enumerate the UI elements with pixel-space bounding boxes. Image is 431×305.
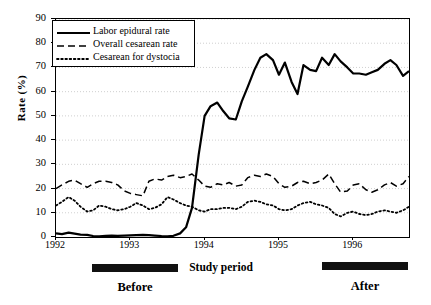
x-tick-label: 1992 xyxy=(35,240,75,250)
chart-figure: Rate (%) 0102030405060708090 19921993199… xyxy=(0,0,431,305)
legend-label: Overall cesarean rate xyxy=(93,38,177,49)
x-axis-title: Study period xyxy=(166,261,276,273)
y-tick-label: 30 xyxy=(20,158,46,168)
y-axis-title: Rate (%) xyxy=(15,63,27,133)
before-period-bar xyxy=(92,264,178,272)
legend-swatch-dotted xyxy=(53,51,93,63)
y-tick-label: 60 xyxy=(20,86,46,96)
series-line-2 xyxy=(56,197,409,216)
legend-swatch-dashed xyxy=(53,38,93,50)
legend-swatch-solid xyxy=(53,25,93,37)
y-tick-label: 90 xyxy=(20,13,46,23)
after-period-bar xyxy=(322,262,408,270)
x-tick-label: 1994 xyxy=(184,240,224,250)
legend-label: Labor epidural rate xyxy=(93,25,170,36)
after-period-label: After xyxy=(310,279,420,294)
legend-item: Labor epidural rate xyxy=(53,24,194,37)
x-tick-label: 1995 xyxy=(258,240,298,250)
legend-item: Overall cesarean rate xyxy=(53,37,194,50)
legend-label: Cesarean for dystocia xyxy=(93,51,180,62)
series-line-1 xyxy=(56,174,409,196)
y-tick-label: 70 xyxy=(20,61,46,71)
x-tick-label: 1996 xyxy=(332,240,372,250)
chart-legend: Labor epidural rateOverall cesarean rate… xyxy=(52,20,195,67)
legend-item: Cesarean for dystocia xyxy=(53,50,194,63)
y-tick-label: 50 xyxy=(20,110,46,120)
y-tick-label: 20 xyxy=(20,183,46,193)
y-tick-label: 10 xyxy=(20,207,46,217)
y-tick-label: 80 xyxy=(20,37,46,47)
x-tick-label: 1993 xyxy=(109,240,149,250)
y-tick-label: 40 xyxy=(20,134,46,144)
before-period-label: Before xyxy=(80,280,190,295)
